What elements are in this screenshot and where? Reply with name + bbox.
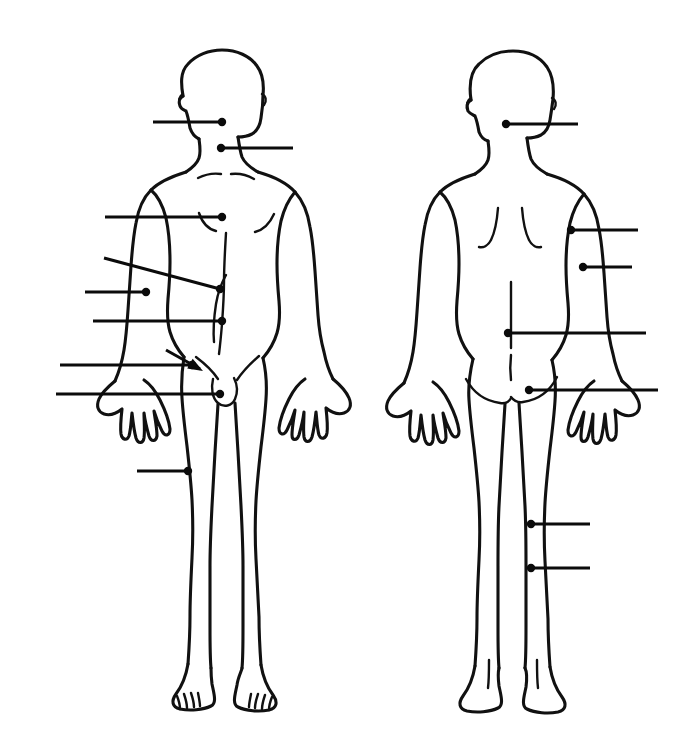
leader-elbow[interactable] [85,288,150,296]
leader-neck[interactable] [217,144,293,152]
leader-hand-front[interactable] [60,361,196,369]
leader-pubis[interactable] [56,390,224,398]
anterior-left-clavicle [198,174,221,178]
posterior-left-arm-outline [404,174,475,383]
anterior-right-hand [279,379,350,442]
leader-waist[interactable] [93,317,226,325]
anterior-left-toes [177,693,200,709]
posterior-left-torso-outline [440,192,473,359]
leader-forearm[interactable] [579,263,632,271]
posterior-right-leg-outline [544,360,555,667]
posterior-right-scapula [522,208,541,247]
anterior-right-toes [249,694,272,710]
anterior-left-leg-outline [182,357,193,664]
anterior-right-torso-outline [263,192,295,358]
leader-calf[interactable] [527,564,590,572]
leader-abdomen[interactable] [104,258,224,293]
posterior-left-achilles [488,660,489,688]
anatomy-diagram-canvas [0,0,687,747]
posterior-right-inner-leg [519,403,526,668]
leader-lines-group [56,118,658,572]
anterior-genital-outline [212,378,237,406]
anterior-right-pectoral [255,214,274,232]
anterior-neck-right [238,137,258,172]
diagram-page: Human Body Diagram — Anterior and Poster… [0,0,687,747]
leader-lower-back[interactable] [504,329,646,337]
leader-knee-back[interactable] [527,520,590,528]
posterior-neck-left [475,141,489,174]
posterior-left-leg-outline [469,359,480,666]
posterior-left-foot [460,666,502,712]
anterior-left-hand [98,380,170,443]
posterior-left-buttock-fold [466,379,511,403]
anterior-neck-left [186,139,200,172]
posterior-right-achilles [537,660,538,688]
posterior-left-scapula [479,208,498,247]
posterior-left-inner-leg [498,404,505,668]
posterior-left-hand [387,382,459,445]
posterior-jaw-outline [467,100,488,141]
posterior-figure [387,51,640,713]
leader-upper-arm[interactable] [567,226,638,234]
leader-back-head[interactable] [502,120,578,128]
anterior-right-inner-leg [235,403,243,668]
leader-thigh[interactable] [137,467,192,475]
anterior-jaw-outline [179,96,199,139]
posterior-right-torso-outline [552,194,584,360]
anterior-right-clavicle [231,174,254,179]
anterior-right-leg-outline [255,358,266,665]
anterior-midline [219,233,226,354]
posterior-right-foot [523,667,565,713]
posterior-neck-right [527,138,547,174]
posterior-gluteal-cleft [510,355,511,380]
anterior-right-inguinal [237,356,259,380]
anterior-left-inner-leg [210,404,218,668]
leader-groin[interactable] [166,350,203,371]
